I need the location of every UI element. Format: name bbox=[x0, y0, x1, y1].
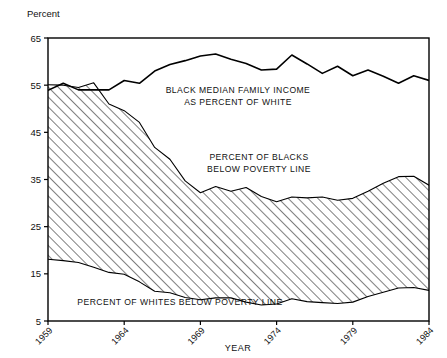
chart-container: Percent 5152535455565 195919641969197419… bbox=[0, 0, 447, 358]
y-tick-label: 15 bbox=[30, 268, 41, 279]
poverty-income-chart: Percent 5152535455565 195919641969197419… bbox=[0, 0, 447, 358]
x-axis-title: YEAR bbox=[225, 343, 252, 353]
y-tick-label: 55 bbox=[30, 80, 41, 91]
x-tick-label: 1974 bbox=[262, 325, 283, 346]
x-tick-label: 1969 bbox=[186, 325, 207, 346]
y-axis-title: Percent bbox=[27, 8, 60, 19]
annotation-income-line2: AS PERCENT OF WHITE bbox=[184, 97, 292, 107]
annotation-blacks-line1: PERCENT OF BLACKS bbox=[209, 152, 308, 162]
annotation-income-line1: BLACK MEDIAN FAMILY INCOME bbox=[166, 85, 311, 95]
annotation-whites-line1: PERCENT OF WHITES BELOW POVERTY LINE bbox=[77, 297, 282, 307]
y-tick-label: 25 bbox=[30, 221, 41, 232]
x-tick-label: 1984 bbox=[414, 325, 435, 346]
x-tick-label: 1964 bbox=[109, 325, 130, 346]
y-tick-label: 35 bbox=[30, 174, 41, 185]
y-tick-label: 65 bbox=[30, 33, 41, 44]
x-tick-label: 1979 bbox=[338, 325, 359, 346]
y-tick-label: 5 bbox=[36, 316, 41, 327]
x-tick-label: 1959 bbox=[33, 325, 54, 346]
y-axis-ticks: 5152535455565 bbox=[30, 33, 48, 327]
y-tick-label: 45 bbox=[30, 127, 41, 138]
annotation-blacks-line2: BELOW POVERTY LINE bbox=[207, 164, 311, 174]
